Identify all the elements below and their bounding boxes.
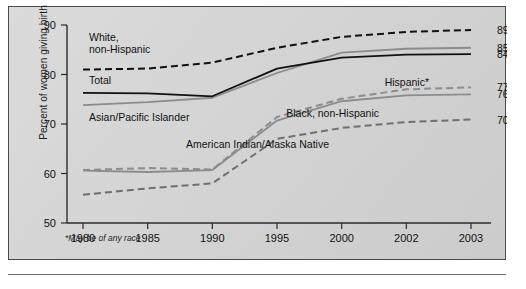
series-line-black-non-hispanic xyxy=(83,94,471,172)
figure-root: Percent of women giving birth 5060708090… xyxy=(0,0,526,289)
series-annotation: non-Hispanic xyxy=(89,43,150,55)
x-tick-label: 1990 xyxy=(200,232,224,244)
y-tick-label: 80 xyxy=(44,69,56,81)
series-annotation: White, xyxy=(89,31,119,43)
series-annotation: Asian/Pacific Islander xyxy=(89,111,190,123)
chart-panel: Percent of women giving birth 5060708090… xyxy=(8,6,506,260)
series-annotation: American Indian/Alaska Native xyxy=(186,138,329,150)
chart-footnote: *May be of any race xyxy=(65,233,141,243)
series-annotation: Black, non-Hispanic xyxy=(286,107,379,119)
line-chart: 5060708090198019851990199520002002200389… xyxy=(9,7,507,261)
series-end-value: 76.0 xyxy=(497,88,507,100)
x-tick-label: 2000 xyxy=(329,232,353,244)
series-end-value: 89.0 xyxy=(497,24,507,36)
series-end-value: 70.9 xyxy=(497,114,507,126)
y-tick-label: 90 xyxy=(44,19,56,31)
y-tick-label: 70 xyxy=(44,118,56,130)
series-line-hispanic xyxy=(83,87,471,170)
series-annotation: Hispanic* xyxy=(385,76,429,88)
x-tick-label: 2003 xyxy=(459,232,483,244)
series-annotation: Total xyxy=(89,74,111,86)
x-tick-label: 2002 xyxy=(394,232,418,244)
y-tick-label: 50 xyxy=(44,217,56,229)
series-line-american-indian-alaska-native xyxy=(83,120,471,195)
y-tick-label: 60 xyxy=(44,168,56,180)
bottom-divider xyxy=(8,274,506,275)
series-end-value: 84.1 xyxy=(497,48,507,60)
x-tick-label: 1995 xyxy=(265,232,289,244)
